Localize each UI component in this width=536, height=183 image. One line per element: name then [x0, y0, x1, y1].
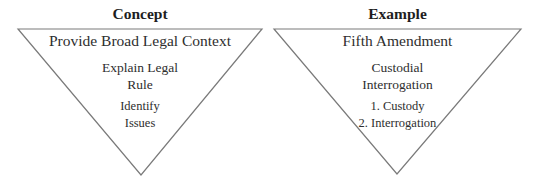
- concept-level-issues-line-2: Issues: [18, 115, 262, 132]
- example-level-broad: Fifth Amendment: [274, 32, 521, 50]
- example-heading: Example: [274, 5, 521, 23]
- concept-level-broad: Provide Broad Legal Context: [18, 32, 262, 50]
- concept-level-rule: Explain Legal Rule: [18, 59, 262, 93]
- example-level-broad-line-1: Fifth Amendment: [274, 32, 521, 50]
- example-level-issues-line-2: 2. Interrogation: [274, 115, 521, 132]
- example-level-issues: 1. Custody 2. Interrogation: [274, 98, 521, 132]
- example-level-rule-line-1: Custodial: [274, 59, 521, 76]
- example-level-rule: Custodial Interrogation: [274, 59, 521, 93]
- concept-level-broad-line-1: Provide Broad Legal Context: [18, 32, 262, 50]
- example-level-rule-line-2: Interrogation: [274, 76, 521, 93]
- concept-level-issues: Identify Issues: [18, 98, 262, 132]
- concept-level-rule-line-1: Explain Legal: [18, 59, 262, 76]
- concept-level-issues-line-1: Identify: [18, 98, 262, 115]
- example-panel: Example Fifth Amendment Custodial Interr…: [274, 0, 521, 183]
- concept-heading: Concept: [18, 5, 262, 23]
- concept-panel: Concept Provide Broad Legal Context Expl…: [18, 0, 262, 183]
- concept-level-rule-line-2: Rule: [18, 76, 262, 93]
- example-level-issues-line-1: 1. Custody: [274, 98, 521, 115]
